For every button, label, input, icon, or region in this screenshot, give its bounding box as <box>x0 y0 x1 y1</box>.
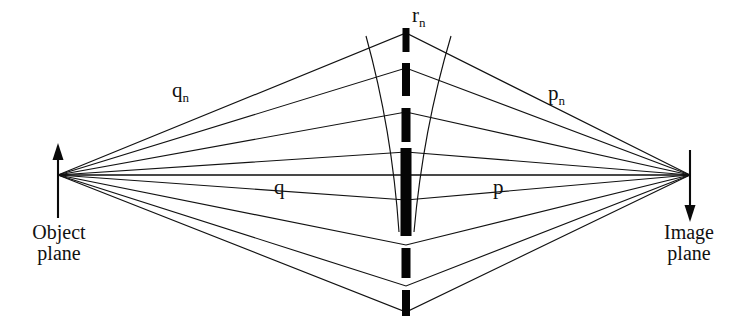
construction-arc-left <box>366 36 399 232</box>
image-plane-label-line1: Image <box>637 222 741 243</box>
p-n-label-base: p <box>548 81 559 105</box>
ray-upper-3 <box>58 112 690 175</box>
r-n-label: rn <box>412 4 426 30</box>
zone-plate-diagram: Object plane Image plane qn pn q p rn <box>0 0 743 328</box>
zone-bar-5 <box>402 248 411 278</box>
ray-upper-2 <box>58 68 690 175</box>
zone-bar-1 <box>403 28 410 52</box>
image-plane-label: Image plane <box>637 222 741 264</box>
image-plane-arrow <box>685 150 696 222</box>
object-plane-label-line1: Object <box>7 222 111 243</box>
q-label: q <box>274 176 285 198</box>
object-plane-arrow <box>53 143 64 218</box>
ray-lower-1 <box>58 175 690 200</box>
zone-bar-3 <box>402 108 411 142</box>
ray-bundle-lower <box>58 175 690 312</box>
q-n-label: qn <box>172 79 189 105</box>
r-n-label-base: r <box>412 3 419 27</box>
p-n-label-sub: n <box>559 93 566 108</box>
ray-lower-2 <box>58 175 690 245</box>
zone-bar-6 <box>402 290 410 316</box>
image-plane-label-line2: plane <box>637 243 741 264</box>
r-n-label-sub: n <box>419 15 426 30</box>
construction-arc-right <box>414 36 451 232</box>
p-n-label: pn <box>548 82 565 108</box>
ray-upper-4 <box>58 152 690 175</box>
zone-bar-4-center <box>401 148 412 236</box>
zone-bar-2 <box>402 63 410 96</box>
diagram-canvas <box>0 0 743 328</box>
q-n-label-base: q <box>172 78 183 102</box>
ray-lower-4 <box>58 175 690 312</box>
object-plane-label-line2: plane <box>7 243 111 264</box>
q-n-label-sub: n <box>183 90 190 105</box>
ray-bundle-upper <box>58 33 690 175</box>
ray-lower-3 <box>58 175 690 286</box>
object-plane-label: Object plane <box>7 222 111 264</box>
zone-plate <box>401 28 412 316</box>
object-arrow-head <box>53 143 64 160</box>
p-label: p <box>493 176 504 198</box>
image-arrow-head <box>685 205 696 222</box>
